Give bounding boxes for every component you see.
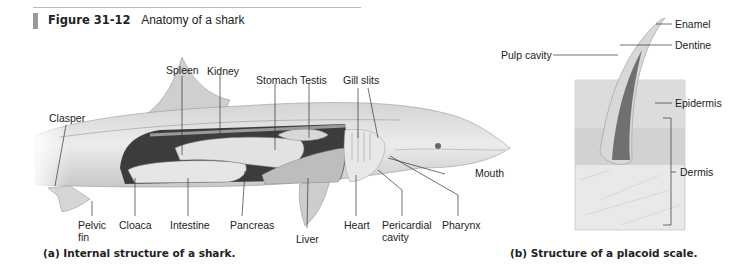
label-pancreas: Pancreas xyxy=(230,219,274,231)
label-pelvic-fin-line2: fin xyxy=(78,231,89,243)
label-liver: Liver xyxy=(296,233,319,245)
label-testis: Testis xyxy=(300,74,327,86)
label-clasper: Clasper xyxy=(49,112,85,124)
caption-panel-a: (a) Internal structure of a shark. xyxy=(43,247,236,259)
label-dentine: Dentine xyxy=(675,39,711,51)
label-pelvic-fin-line1: Pelvic xyxy=(78,219,106,231)
label-pericardial-line2: cavity xyxy=(382,231,409,243)
label-enamel: Enamel xyxy=(675,18,711,30)
label-cloaca: Cloaca xyxy=(119,219,152,231)
label-gill-slits: Gill slits xyxy=(343,74,379,86)
label-pelvic-fin: Pelvic fin xyxy=(78,219,106,243)
caption-panel-b: (b) Structure of a placoid scale. xyxy=(510,247,698,259)
label-spleen: Spleen xyxy=(166,64,199,76)
label-pulp-cavity: Pulp cavity xyxy=(501,49,552,61)
label-epidermis: Epidermis xyxy=(675,97,722,109)
shark-illustration xyxy=(0,0,748,264)
label-stomach: Stomach xyxy=(256,74,297,86)
label-kidney: Kidney xyxy=(207,65,239,77)
label-intestine: Intestine xyxy=(170,219,210,231)
label-pharynx: Pharynx xyxy=(442,219,481,231)
label-pericardial-line1: Pericardial xyxy=(382,219,432,231)
label-pericardial-cavity: Pericardial cavity xyxy=(382,219,432,243)
label-dermis: Dermis xyxy=(680,166,713,178)
label-mouth: Mouth xyxy=(475,167,504,179)
label-heart: Heart xyxy=(344,219,370,231)
